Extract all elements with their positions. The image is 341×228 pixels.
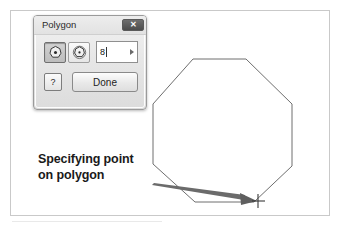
sides-input[interactable]: 8 bbox=[96, 41, 138, 63]
inscribed-polygon-icon bbox=[48, 45, 63, 60]
circumscribed-polygon-icon bbox=[72, 45, 87, 60]
spinner-arrow-icon[interactable] bbox=[130, 49, 134, 55]
done-button[interactable]: Done bbox=[72, 72, 138, 92]
caption-line-1: Specifying point bbox=[38, 152, 178, 168]
sides-input-value: 8 bbox=[100, 47, 105, 57]
inscribed-polygon-button[interactable] bbox=[44, 42, 66, 63]
close-button[interactable]: ✕ bbox=[122, 19, 144, 31]
help-button[interactable]: ? bbox=[44, 73, 62, 91]
dialog-title: Polygon bbox=[42, 19, 76, 30]
dialog-action-row: ? Done bbox=[34, 71, 147, 97]
figure-screenshot: Specifying point on polygon Polygon ✕ bbox=[0, 0, 341, 228]
question-mark-icon: ? bbox=[50, 78, 55, 87]
close-icon: ✕ bbox=[130, 21, 137, 29]
caption-line-2: on polygon bbox=[38, 168, 178, 184]
polygon-dialog[interactable]: Polygon ✕ 8 bbox=[33, 15, 147, 110]
caption-text: Specifying point on polygon bbox=[38, 152, 178, 183]
done-button-label: Done bbox=[93, 77, 117, 88]
scan-artifact-line bbox=[12, 221, 162, 222]
circumscribed-polygon-button[interactable] bbox=[68, 42, 90, 63]
text-caret bbox=[106, 47, 107, 57]
dialog-controls-row: 8 bbox=[34, 40, 147, 66]
dialog-titlebar[interactable]: Polygon ✕ bbox=[34, 16, 147, 35]
